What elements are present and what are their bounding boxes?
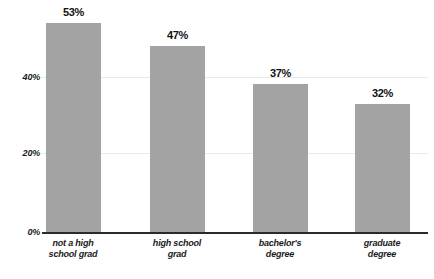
category-label-line: school grad xyxy=(25,249,121,260)
bar-value-label: 32% xyxy=(355,87,410,99)
category-label: not a high school grad xyxy=(25,238,121,260)
category-label-line: degree xyxy=(232,249,328,260)
bar-value-label: 47% xyxy=(150,29,205,41)
bar-chart: 40% 20% 0% 53% 47% 37% 32% not a high sc… xyxy=(0,0,434,279)
bar-value-label: 53% xyxy=(46,6,101,18)
plot-area: 40% 20% 0% 53% 47% 37% 32% not a high sc… xyxy=(0,0,434,279)
category-label: high school grad xyxy=(129,238,225,260)
bar xyxy=(253,84,308,232)
category-label-line: graduate xyxy=(334,238,430,249)
category-label-line: grad xyxy=(129,249,225,260)
bar xyxy=(150,46,205,232)
bar xyxy=(46,23,101,232)
y-tick-label-0: 0% xyxy=(6,227,40,237)
category-label-line: high school xyxy=(129,238,225,249)
bar-value-label: 37% xyxy=(253,67,308,79)
x-axis-line xyxy=(42,232,428,234)
category-label: graduate degree xyxy=(334,238,430,260)
category-label: bachelor's degree xyxy=(232,238,328,260)
category-label-line: degree xyxy=(334,249,430,260)
category-label-line: not a high xyxy=(25,238,121,249)
category-label-line: bachelor's xyxy=(232,238,328,249)
bar xyxy=(355,104,410,232)
y-tick-label-20: 20% xyxy=(6,148,40,158)
y-tick-label-40: 40% xyxy=(6,72,40,82)
